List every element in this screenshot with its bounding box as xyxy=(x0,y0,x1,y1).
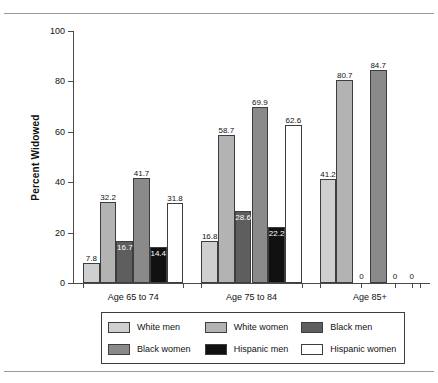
bar-value-label: 0 xyxy=(409,273,413,281)
bar: 62.6 xyxy=(285,125,302,283)
bar-value-label: 14.4 xyxy=(150,250,166,258)
y-tick-mark xyxy=(68,31,73,32)
legend-swatch xyxy=(108,344,130,355)
legend-item[interactable]: Hispanic men xyxy=(205,338,302,360)
y-tick-mark xyxy=(68,132,73,133)
x-axis-category-label: Age 75 to 84 xyxy=(226,293,277,302)
bars-layer: 7.832.216.741.714.431.816.858.728.669.92… xyxy=(73,31,430,283)
legend-label: White women xyxy=(234,323,289,332)
bar-value-label: 31.8 xyxy=(167,195,183,203)
x-tick-mark xyxy=(83,283,84,288)
x-tick-mark xyxy=(420,283,421,288)
bar-value-label: 22.2 xyxy=(269,230,285,238)
bar-value-label: 84.7 xyxy=(370,62,386,70)
bar: 80.7 xyxy=(336,80,353,283)
y-tick-label: 60 xyxy=(55,127,65,136)
legend-item[interactable]: Black men xyxy=(301,316,398,338)
bar: 16.8 xyxy=(201,241,218,283)
bar: 22.2 xyxy=(268,227,285,283)
y-tick-mark xyxy=(68,81,73,82)
legend-label: White men xyxy=(137,323,180,332)
bar-value-label: 58.7 xyxy=(219,127,235,135)
bar-value-label: 80.7 xyxy=(337,72,353,80)
bar: 14.4 xyxy=(150,247,167,283)
y-tick-label: 80 xyxy=(55,77,65,86)
bar-value-label: 32.2 xyxy=(100,194,116,202)
bar-value-label: 7.8 xyxy=(86,255,97,263)
x-tick-mark xyxy=(395,283,396,288)
legend-label: Black men xyxy=(330,323,372,332)
bar: 69.9 xyxy=(252,107,269,283)
y-tick-mark xyxy=(68,182,73,183)
legend-swatch xyxy=(205,344,227,355)
y-axis-title: Percent Widowed xyxy=(28,31,42,283)
bar: 32.2 xyxy=(100,202,117,283)
y-tick-label: 40 xyxy=(55,178,65,187)
legend-item[interactable]: Black women xyxy=(108,338,205,360)
legend-label: Black women xyxy=(137,345,191,354)
bar: 58.7 xyxy=(218,135,235,283)
bar: 84.7 xyxy=(370,70,387,283)
bar: 16.7 xyxy=(116,241,133,283)
legend-swatch xyxy=(301,322,323,333)
x-tick-mark xyxy=(320,283,321,288)
legend-item[interactable]: White women xyxy=(205,316,302,338)
bar-value-label: 16.8 xyxy=(202,233,218,241)
x-axis-line xyxy=(73,283,430,284)
y-axis-title-text: Percent Widowed xyxy=(30,114,41,200)
y-tick-mark xyxy=(68,283,73,284)
y-tick-mark xyxy=(68,233,73,234)
legend-label: Hispanic men xyxy=(234,345,289,354)
chart-page: Percent Widowed 7.832.216.741.714.431.81… xyxy=(0,0,438,383)
chart-legend: White menWhite womenBlack menBlack women… xyxy=(101,312,405,364)
bar-value-label: 0 xyxy=(359,273,363,281)
y-tick-label: 20 xyxy=(55,228,65,237)
legend-swatch xyxy=(108,322,130,333)
bar: 41.7 xyxy=(133,178,150,283)
bar-value-label: 62.6 xyxy=(286,117,302,125)
x-tick-mark xyxy=(302,283,303,288)
legend-item[interactable]: Hispanic women xyxy=(301,338,398,360)
legend-swatch xyxy=(205,322,227,333)
x-tick-mark xyxy=(201,283,202,288)
top-divider-rule xyxy=(4,13,434,14)
bar: 41.2 xyxy=(320,179,337,283)
x-axis-category-label: Age 85+ xyxy=(353,293,387,302)
bar: 28.6 xyxy=(235,211,252,283)
bottom-divider-rule xyxy=(4,371,434,372)
bar: 7.8 xyxy=(83,263,100,283)
y-tick-label: 0 xyxy=(60,279,65,288)
x-tick-mark xyxy=(183,283,184,288)
bar-value-label: 28.6 xyxy=(235,214,251,222)
y-tick-label: 100 xyxy=(50,27,65,36)
bar-value-label: 69.9 xyxy=(252,99,268,107)
bar-value-label: 16.7 xyxy=(117,244,133,252)
legend-label: Hispanic women xyxy=(330,345,396,354)
x-tick-mark xyxy=(361,283,362,288)
legend-swatch xyxy=(301,344,323,355)
legend-item[interactable]: White men xyxy=(108,316,205,338)
bar-value-label: 41.2 xyxy=(320,171,336,179)
plot-area: 7.832.216.741.714.431.816.858.728.669.92… xyxy=(73,31,430,283)
bar-value-label: 41.7 xyxy=(134,170,150,178)
bar: 31.8 xyxy=(167,203,184,283)
x-tick-mark xyxy=(412,283,413,288)
x-axis-category-label: Age 65 to 74 xyxy=(108,293,159,302)
bar-value-label: 0 xyxy=(393,273,397,281)
